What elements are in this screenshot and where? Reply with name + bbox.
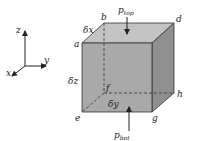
vertex-h: h [177, 89, 183, 99]
dz-label: δz [68, 76, 78, 86]
p-top-label: ptop [118, 5, 134, 17]
vertex-g: g [152, 113, 158, 123]
dx-label: δx [83, 25, 94, 35]
vertex-b: b [101, 12, 107, 22]
x-axis-label: x [6, 68, 11, 78]
dy-label: δy [108, 99, 119, 109]
coordinate-axes: z y x [6, 25, 50, 78]
vertex-e: e [75, 113, 80, 123]
cube-diagram: z y x a b d e f g h δx δz δy ptop pbot [0, 0, 208, 141]
x-axis [12, 66, 25, 76]
p-bot-label: pbot [114, 130, 130, 141]
y-axis-label: y [43, 55, 50, 65]
vertex-d: d [176, 14, 182, 24]
z-axis-label: z [15, 25, 21, 35]
vertex-a: a [74, 39, 79, 49]
cube [82, 23, 174, 112]
